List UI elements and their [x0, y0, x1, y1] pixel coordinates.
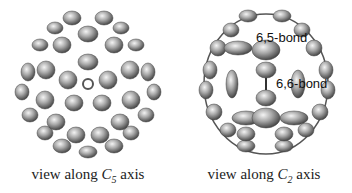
bond-label-6-5: 6,5-bond [256, 30, 307, 45]
caption-suffix: axis [117, 166, 145, 182]
caption-prefix: view along [32, 166, 102, 182]
panel-c2-view: 6,5-bond 6,6-bond view along C2 axis [176, 0, 352, 193]
axis-symbol: C2 [278, 166, 293, 182]
caption-suffix: axis [293, 166, 321, 182]
axis-symbol: C5 [102, 166, 117, 182]
panel-c5-view: view along C5 axis [0, 0, 176, 193]
bond-label-6-6: 6,6-bond [276, 76, 327, 91]
caption-prefix: view along [208, 166, 278, 182]
caption-c5: view along C5 axis [0, 166, 176, 185]
caption-c2: view along C2 axis [176, 166, 352, 185]
c60-c5-rendering [0, 0, 176, 165]
